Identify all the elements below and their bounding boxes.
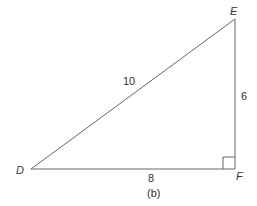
vertex-label-f: F	[236, 170, 244, 182]
side-label-ef: 6	[241, 90, 247, 102]
triangle-def	[31, 19, 235, 169]
side-label-de: 10	[123, 75, 135, 87]
side-label-df: 8	[148, 172, 154, 184]
caption: (b)	[147, 187, 160, 199]
vertex-label-d: D	[16, 164, 24, 176]
triangle-diagram: E D F 10 6 8 (b)	[0, 0, 257, 206]
right-angle-marker	[223, 157, 235, 169]
vertex-label-e: E	[230, 5, 238, 17]
